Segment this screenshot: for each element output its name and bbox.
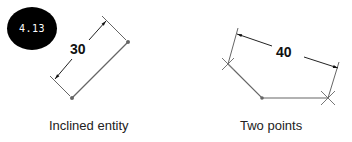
polyline-entity xyxy=(228,64,328,98)
caption-two-points: Two points xyxy=(240,118,302,133)
dimension-line xyxy=(55,59,72,79)
dimension-value: 40 xyxy=(276,44,292,60)
caption-inclined-entity: Inclined entity xyxy=(49,118,129,133)
two-points-figure: 40 xyxy=(222,28,339,105)
extension-line xyxy=(102,16,126,40)
dimension-line xyxy=(89,21,106,40)
endpoint-icon xyxy=(70,96,74,100)
extension-line xyxy=(50,76,70,96)
inclined-entity-figure: 30 xyxy=(50,16,130,100)
vertex-icon xyxy=(260,96,264,100)
dimension-value: 30 xyxy=(70,41,86,57)
endpoint-icon xyxy=(126,40,130,44)
dimension-line xyxy=(304,57,338,68)
dimension-line xyxy=(237,34,272,46)
